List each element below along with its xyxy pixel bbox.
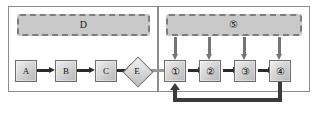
- arrow-a-to-b: [37, 67, 55, 74]
- node-3[interactable]: ③: [234, 60, 256, 82]
- node-1-label: ①: [171, 66, 180, 77]
- node-a-label: A: [23, 66, 30, 76]
- dashed-group-five[interactable]: ⑤: [166, 14, 302, 36]
- node-b-label: B: [63, 66, 69, 76]
- dashed-group-d[interactable]: D: [17, 14, 150, 36]
- arrow-b-to-c: [77, 67, 95, 74]
- node-4[interactable]: ④: [269, 60, 291, 82]
- dashed-group-five-label: ⑤: [229, 20, 238, 30]
- node-c-label: C: [103, 66, 109, 76]
- node-a[interactable]: A: [15, 60, 37, 82]
- diagram-canvas: D ⑤: [0, 0, 319, 114]
- node-1[interactable]: ①: [164, 60, 186, 82]
- node-2[interactable]: ②: [199, 60, 221, 82]
- arrow-group-five-to-node-4: [276, 37, 283, 60]
- dashed-group-d-label: D: [80, 20, 87, 30]
- feedback-segment-horizontal: [173, 98, 282, 102]
- node-2-label: ②: [206, 66, 215, 77]
- node-c[interactable]: C: [95, 60, 117, 82]
- node-e[interactable]: E: [124, 58, 150, 84]
- arrow-group-five-to-node-1: [172, 37, 179, 60]
- node-3-label: ③: [241, 66, 250, 77]
- node-4-label: ④: [276, 66, 285, 77]
- node-b[interactable]: B: [55, 60, 77, 82]
- arrow-group-five-to-node-2: [206, 37, 213, 60]
- node-e-label: E: [124, 58, 150, 84]
- arrow-group-five-to-node-3: [241, 37, 248, 60]
